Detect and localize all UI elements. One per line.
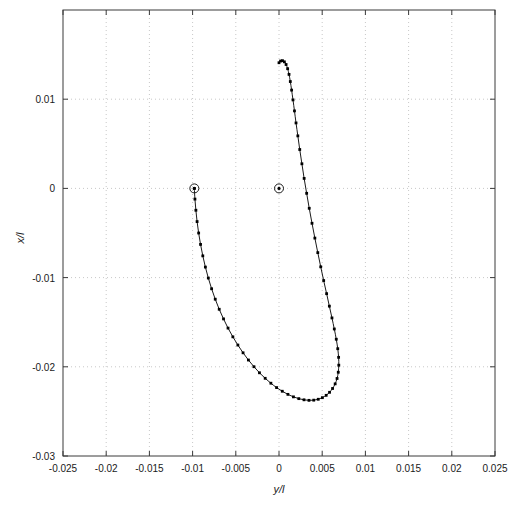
data-point-marker [292,99,295,102]
x-axis-title: y/l [273,483,286,495]
data-point-marker [336,377,339,380]
y-tick-label: -0.03 [32,451,55,462]
data-point-marker [301,162,304,165]
data-point-marker [269,382,272,385]
data-point-marker [196,220,199,223]
data-point-marker [210,287,213,290]
data-point-marker [313,237,316,240]
data-point-marker [197,232,200,235]
data-point-marker [325,394,328,397]
x-tick-label: -0.02 [95,463,118,474]
data-point-marker [247,359,250,362]
y-tick-label: 0 [49,183,55,194]
x-tick-label: 0 [276,463,282,474]
data-point-marker [325,292,328,295]
data-point-marker [293,109,296,112]
x-tick-label: 0.025 [482,463,507,474]
data-point-marker [227,327,230,330]
data-point-marker [253,365,256,368]
data-point-marker [328,391,331,394]
data-point-marker [321,396,324,399]
data-point-marker [305,192,308,195]
data-point-marker [337,364,340,367]
x-tick-label: 0.015 [396,463,421,474]
data-point-marker [333,328,336,331]
data-point-marker [331,317,334,320]
data-point-marker [214,298,217,301]
data-point-marker [204,266,207,269]
x-tick-label: -0.01 [181,463,204,474]
data-point-marker [285,63,288,66]
data-point-marker [201,254,204,257]
data-point-marker [258,371,261,374]
data-point-marker [316,251,319,254]
data-point-marker [288,73,291,76]
data-point-marker [264,377,267,380]
data-point-marker [287,393,290,396]
data-point-marker [242,351,245,354]
data-point-marker [337,356,340,359]
data-point-marker [296,134,299,137]
data-point-marker [231,335,234,338]
data-point-marker [336,347,339,350]
data-point-marker [303,398,306,401]
data-point-marker [297,397,300,400]
data-point-marker [295,122,298,125]
data-point-marker [281,390,284,393]
data-point-marker [292,395,295,398]
data-point-marker [317,398,320,401]
y-axis-title: x/l [14,232,26,245]
data-point-marker [194,198,197,201]
data-point-marker [303,177,306,180]
data-point-marker [328,305,331,308]
y-tick-label: -0.02 [32,362,55,373]
data-point-marker [278,61,281,64]
y-tick-label: 0.01 [36,94,56,105]
data-point-marker [290,89,293,92]
x-tick-label: -0.015 [135,463,164,474]
data-point-marker [236,344,239,347]
data-point-marker [322,279,325,282]
x-tick-label: -0.025 [49,463,78,474]
data-point-marker [222,318,225,321]
data-point-marker [199,243,202,246]
data-point-marker [289,80,292,83]
data-point-marker [218,308,221,311]
data-point-marker [335,338,338,341]
data-point-marker [312,399,315,402]
data-point-marker [207,277,210,280]
plot-background [0,0,517,508]
x-tick-label: 0.005 [310,463,335,474]
x-tick-label: 0.02 [442,463,462,474]
data-point-marker [308,207,311,210]
data-point-marker [319,265,322,268]
data-point-marker [286,67,289,70]
data-point-marker [308,399,311,402]
end-point-dot [277,187,280,190]
data-point-marker [311,222,314,225]
x-tick-label: 0.01 [356,463,376,474]
trajectory-plot: -0.025-0.02-0.015-0.01-0.00500.0050.010.… [0,0,517,508]
data-point-marker [275,386,278,389]
x-tick-label: -0.005 [222,463,251,474]
data-point-marker [331,387,334,390]
data-point-marker [194,209,197,212]
start-point-dot [193,187,196,190]
y-tick-label: -0.01 [32,273,55,284]
data-point-marker [334,382,337,385]
chart-page: -0.025-0.02-0.015-0.01-0.00500.0050.010.… [0,0,517,508]
data-point-marker [337,371,340,374]
data-point-marker [298,148,301,151]
